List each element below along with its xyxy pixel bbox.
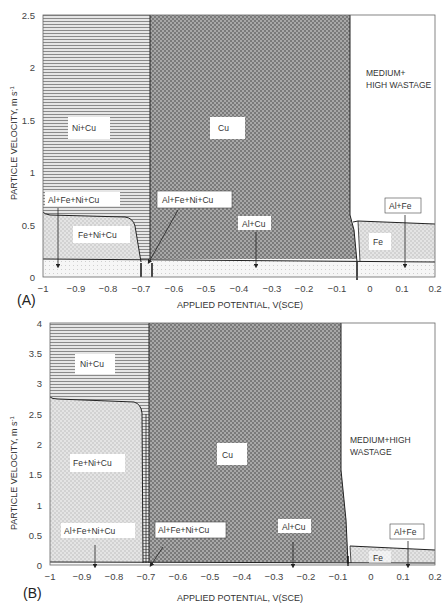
svg-text:1: 1 [30, 167, 35, 178]
region-b-cu-right-edge [341, 323, 348, 563]
svg-text:1: 1 [37, 500, 42, 511]
label-a-al-fe-ni-cu-1: Al+Fe+Ni+Cu [48, 195, 100, 205]
svg-text:0.2: 0.2 [428, 571, 441, 582]
label-a-fe: Fe [373, 237, 383, 247]
svg-text:−0.7: −0.7 [132, 283, 151, 294]
y-axis-label-b: PARTICLE VELOCITY, m s-1 [9, 415, 19, 530]
svg-text:−0.2: −0.2 [297, 571, 316, 582]
svg-text:−0.8: −0.8 [99, 283, 118, 294]
svg-text:1.5: 1.5 [29, 469, 42, 480]
svg-text:0: 0 [30, 272, 35, 283]
svg-text:0.1: 0.1 [395, 283, 408, 294]
label-b-al-fe-ni-cu-1: Al+Fe+Ni+Cu [64, 526, 116, 536]
svg-text:−0.6: −0.6 [169, 571, 188, 582]
region-b-fe [350, 546, 435, 563]
svg-text:0.5: 0.5 [29, 530, 42, 541]
svg-text:−0.2: −0.2 [295, 283, 314, 294]
svg-text:0: 0 [368, 571, 373, 582]
x-axis-label-a: APPLIED POTENTIAL, V(SCE) [177, 300, 303, 310]
svg-text:3: 3 [37, 378, 42, 389]
region-b-fe-ni-cu [50, 397, 143, 563]
svg-text:2.5: 2.5 [22, 10, 35, 21]
label-b-cu: Cu [222, 450, 233, 460]
label-b-al-fe-ni-cu-2: Al+Fe+Ni+Cu [158, 525, 210, 535]
chart-b: Ni+Cu Cu MEDIUM+HIGH WASTAGE Fe+Ni+Cu Al… [9, 318, 442, 603]
x-axis-a: −1 −0.9 −0.8 −0.7 −0.6 −0.5 −0.4 −0.3 −0… [38, 283, 442, 294]
y-axis-b: 0 0.5 1 1.5 2 2.5 3 3.5 4 [29, 318, 42, 571]
svg-text:0.5: 0.5 [22, 220, 35, 231]
svg-text:1.5: 1.5 [22, 115, 35, 126]
y-axis-a: 0 0.5 1 1.5 2 2.5 [22, 10, 35, 283]
svg-text:0.2: 0.2 [428, 283, 441, 294]
svg-text:3.5: 3.5 [29, 348, 42, 359]
svg-text:−0.5: −0.5 [201, 571, 220, 582]
svg-text:−0.3: −0.3 [263, 283, 282, 294]
svg-text:0: 0 [37, 560, 42, 571]
label-b-wastage-1: MEDIUM+HIGH [350, 435, 411, 445]
label-a-wastage-2: HIGH WASTAGE [366, 80, 432, 90]
svg-text:−0.5: −0.5 [197, 283, 216, 294]
label-b-fe: Fe [373, 553, 383, 563]
label-a-fe-ni-cu: Fe+Ni+Cu [78, 230, 117, 240]
y-axis-label-a: PARTICLE VELOCITY, m s-1 [9, 85, 19, 200]
svg-text:−0.8: −0.8 [105, 571, 124, 582]
svg-text:0: 0 [367, 283, 372, 294]
svg-text:−0.1: −0.1 [329, 571, 348, 582]
svg-text:−0.7: −0.7 [137, 571, 156, 582]
label-a-cu: Cu [218, 123, 229, 133]
svg-text:−0.4: −0.4 [233, 571, 252, 582]
panel-label-a: (A) [17, 292, 36, 308]
svg-text:2: 2 [30, 62, 35, 73]
svg-text:−0.1: −0.1 [328, 283, 347, 294]
svg-text:−1: −1 [45, 571, 56, 582]
label-b-al-fe: Al+Fe [394, 527, 417, 537]
chart-a: Ni+Cu Cu MEDIUM+ HIGH WASTAGE Al+Fe+Ni+C… [9, 10, 442, 310]
label-a-al-fe: Al+Fe [389, 201, 412, 211]
svg-text:4: 4 [37, 318, 42, 329]
figure: Ni+Cu Cu MEDIUM+ HIGH WASTAGE Al+Fe+Ni+C… [0, 0, 448, 611]
svg-text:−0.9: −0.9 [67, 283, 86, 294]
svg-text:2.5: 2.5 [29, 409, 42, 420]
svg-text:−0.9: −0.9 [73, 571, 92, 582]
label-b-wastage-2: WASTAGE [350, 447, 392, 457]
svg-text:−1: −1 [38, 283, 49, 294]
label-a-al-cu: Al+Cu [242, 219, 266, 229]
panel-label-b: (B) [23, 585, 42, 601]
region-wastage [355, 15, 435, 220]
label-b-al-cu: Al+Cu [282, 522, 306, 532]
label-b-fe-ni-cu: Fe+Ni+Cu [73, 458, 112, 468]
svg-text:0.1: 0.1 [396, 571, 409, 582]
label-a-al-fe-ni-cu-2: Al+Fe+Ni+Cu [162, 195, 214, 205]
label-b-ni-cu: Ni+Cu [80, 359, 104, 369]
svg-text:−0.4: −0.4 [230, 283, 249, 294]
svg-text:−0.3: −0.3 [265, 571, 284, 582]
x-axis-b: −1 −0.9 −0.8 −0.7 −0.6 −0.5 −0.4 −0.3 −0… [45, 571, 442, 582]
label-a-wastage-1: MEDIUM+ [366, 68, 405, 78]
svg-text:−0.6: −0.6 [165, 283, 184, 294]
label-a-ni-cu: Ni+Cu [72, 123, 96, 133]
svg-text:2: 2 [37, 439, 42, 450]
x-axis-label-b: APPLIED POTENTIAL, V(SCE) [177, 593, 303, 603]
